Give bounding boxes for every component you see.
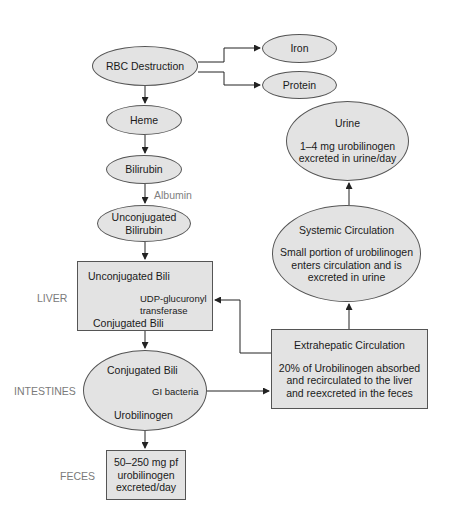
iron-label: Iron (290, 42, 308, 55)
protein-node: Protein (262, 71, 337, 99)
intestines-region-label: INTESTINES (14, 385, 76, 397)
liver-conjugated-label: Conjugated Bili (93, 317, 164, 329)
intestines-urobilinogen-label: Urobilinogen (114, 409, 173, 421)
liver-unconjugated-label: Unconjugated Bili (88, 270, 170, 282)
systemic-line1: Small portion of urobilinogen (280, 246, 413, 259)
extrahepatic-title: Extrahepatic Circulation (294, 339, 405, 352)
bilirubin-node: Bilirubin (106, 155, 182, 184)
unconjugated-bilirubin-node: Unconjugated Bilirubin (97, 205, 191, 242)
extrahepatic-line1: 20% of Urobilinogen absorbed (279, 362, 420, 375)
feces-box: 50–250 mg pf urobilinogen excreted/day (106, 450, 186, 500)
feces-line1: 50–250 mg pf (114, 456, 178, 469)
liver-region-label: LIVER (37, 292, 67, 304)
urine-line2: excreted in urine/day (299, 152, 396, 165)
bilirubin-label: Bilirubin (125, 163, 162, 176)
unconjugated-line2: Bilirubin (125, 224, 162, 237)
rbc-destruction-node: RBC Destruction (92, 46, 198, 86)
systemic-title: Systemic Circulation (299, 224, 394, 237)
extrahepatic-line3: and reexcreted in the feces (286, 387, 413, 400)
intestines-agent-label: GI bacteria (152, 386, 198, 397)
intestines-node: Conjugated Bili GI bacteria Urobilinogen (83, 350, 207, 431)
liver-box: Unconjugated Bili UDP-glucuronyl transfe… (77, 261, 213, 331)
extrahepatic-line2: and recirculated to the liver (286, 374, 412, 387)
liver-enzyme-line2: transferase (140, 305, 188, 316)
urine-line1: 1–4 mg urobilinogen (300, 140, 395, 153)
systemic-circulation-node: Systemic Circulation Small portion of ur… (272, 205, 421, 302)
unconjugated-line1: Unconjugated (112, 211, 177, 224)
urine-title: Urine (335, 117, 360, 130)
systemic-line2: enters circulation and is (291, 259, 401, 272)
heme-node: Heme (106, 105, 182, 135)
extrahepatic-circulation-box: Extrahepatic Circulation 20% of Urobilin… (271, 329, 428, 409)
systemic-line3: excreted in urine (308, 271, 386, 284)
urine-node: Urine 1–4 mg urobilinogen excreted in ur… (286, 101, 409, 181)
intestines-conjugated-label: Conjugated Bili (107, 364, 178, 376)
albumin-label: Albumin (154, 189, 192, 201)
protein-label: Protein (283, 79, 316, 92)
feces-line3: excreted/day (116, 481, 176, 494)
liver-enzyme-line1: UDP-glucuronyl (140, 293, 207, 304)
feces-region-label: FECES (60, 470, 95, 482)
feces-line2: urobilinogen (117, 469, 174, 482)
iron-node: Iron (262, 34, 337, 63)
heme-label: Heme (130, 114, 158, 127)
rbc-destruction-label: RBC Destruction (106, 60, 184, 73)
